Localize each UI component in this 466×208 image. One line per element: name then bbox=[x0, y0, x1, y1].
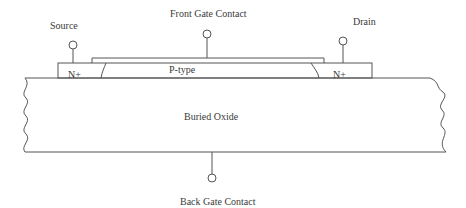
source-junction bbox=[101, 63, 106, 78]
source-label: Source bbox=[50, 20, 78, 32]
p-type-label: P-type bbox=[169, 64, 195, 76]
drain-label: Drain bbox=[353, 16, 376, 28]
drain-junction bbox=[311, 63, 319, 78]
source-terminal-icon bbox=[69, 41, 77, 49]
gate-electrode bbox=[92, 58, 324, 63]
buried-oxide-label: Buried Oxide bbox=[184, 111, 238, 123]
back-gate-terminal-icon bbox=[208, 174, 216, 182]
front-gate-label: Front Gate Contact bbox=[170, 8, 247, 20]
back-gate-label: Back Gate Contact bbox=[180, 196, 256, 208]
drain-terminal-icon bbox=[339, 37, 347, 45]
n-plus-left-label: N+ bbox=[68, 69, 81, 81]
n-plus-right-label: N+ bbox=[333, 69, 346, 81]
front-gate-terminal-icon bbox=[203, 30, 211, 38]
